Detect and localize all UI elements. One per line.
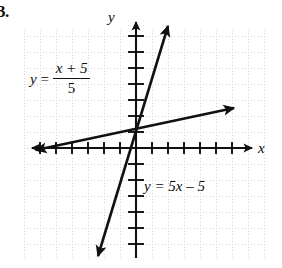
equation-shallow-lhs: y bbox=[30, 71, 37, 87]
equation-shallow-relation: = bbox=[40, 71, 48, 87]
graph-figure bbox=[0, 0, 282, 268]
y-axis-label: y bbox=[108, 9, 115, 26]
x-axis-label: x bbox=[258, 140, 265, 157]
fraction-numerator: x + 5 bbox=[53, 61, 91, 77]
equation-shallow-line: y = x + 5 5 bbox=[30, 62, 90, 99]
equation-steep-line: y = 5x – 5 bbox=[144, 178, 205, 195]
equation-shallow-fraction: x + 5 5 bbox=[53, 61, 91, 98]
fraction-denominator: 5 bbox=[53, 79, 91, 97]
